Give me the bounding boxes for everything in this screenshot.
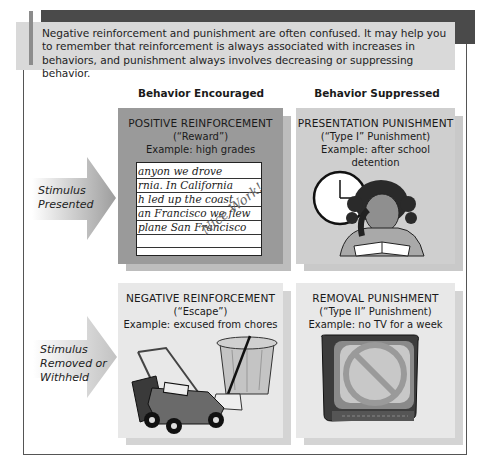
accent-bar — [29, 11, 33, 65]
cell-title: PRESENTATION PUNISHMENT — [296, 117, 455, 130]
handwriting-line: plane San Francisco — [138, 221, 246, 233]
handwriting-line: anyon we drove — [138, 165, 222, 177]
cell-title: NEGATIVE REINFORCEMENT — [118, 292, 283, 305]
row-label-removed: Stimulus Removed or Withheld — [40, 343, 108, 385]
note-box: Negative reinforcement and punishment ar… — [16, 22, 455, 70]
cell-example: Example: excused from chores — [118, 318, 283, 331]
cell-example: Example: high grades — [118, 143, 283, 156]
handwriting-line: rnia. In California — [138, 179, 233, 191]
cell-subtitle: (“Escape”) — [118, 305, 283, 318]
row-label-removed-text: Stimulus Removed or Withheld — [40, 343, 108, 385]
cell-title: REMOVAL PUNISHMENT — [296, 292, 455, 305]
cell-title: POSITIVE REINFORCEMENT — [118, 117, 283, 130]
lawnmower-trash-can-icon — [128, 332, 284, 434]
handwriting-line: h led up the coast — [138, 193, 233, 205]
cell-example: Example: after school detention — [296, 143, 455, 169]
row-label-presented: Stimulus Presented — [38, 184, 90, 212]
row-label-presented-text: Stimulus Presented — [38, 184, 90, 212]
cell-subtitle: (“Reward”) — [118, 130, 283, 143]
cell-example: Example: no TV for a week — [296, 318, 455, 331]
cell-subtitle: (“Type I” Punishment) — [296, 130, 455, 143]
tv-prohibited-icon — [318, 333, 422, 429]
graded-paper-icon: anyon we drove rnia. In California h led… — [136, 162, 262, 256]
cell-subtitle: (“Type II” Punishment) — [296, 305, 455, 318]
girl-studying-clock-icon — [310, 168, 450, 260]
